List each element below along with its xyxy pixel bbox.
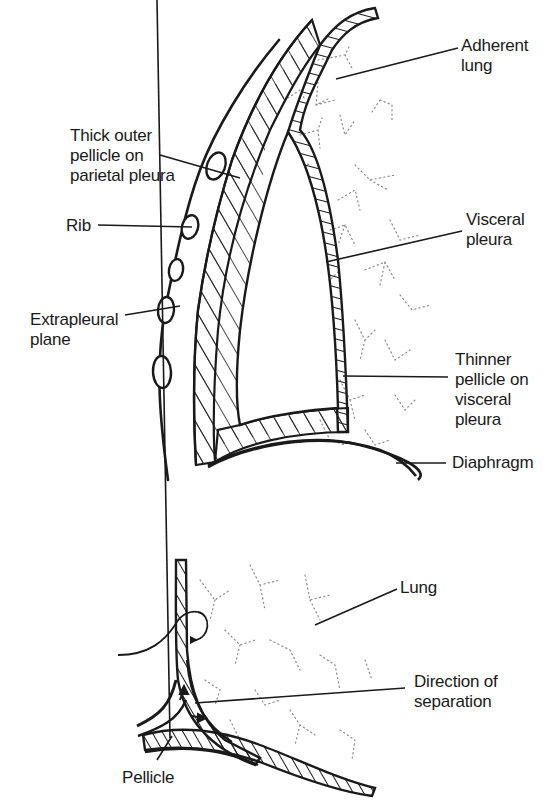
rib-3 [167,258,185,282]
label-extrapleural-plane: Extrapleural plane [30,310,118,350]
leader-rib [98,225,192,227]
label-adherent-lung: Adherent lung [461,36,528,76]
label-thinner-pellicle: Thinner pellicle on visceral pleura [455,350,528,430]
separation-loop [118,612,207,655]
label-pellicle: Pellicle [122,768,174,788]
upper-diagram [98,8,462,480]
pleural-pellicle-figure: Adherent lung Thick outer pellicle on pa… [0,0,559,810]
label-direction-of-separation: Direction of separation [414,672,498,712]
label-lung: Lung [400,578,437,598]
leader-adherent-lung [336,48,458,79]
lung-tissue-stipple-lower [200,565,372,760]
label-rib: Rib [66,216,91,236]
rib-5 [152,356,172,389]
leader-direction-of-separation [195,688,405,703]
leader-lung [315,589,397,625]
label-diaphragm: Diaphragm [452,453,533,473]
leader-thinner-pellicle [343,376,448,377]
leader-visceral-pleura [326,231,462,262]
label-visceral-pleura: Visceral pleura [466,210,525,250]
label-thick-outer-pellicle: Thick outer pellicle on parietal pleura [70,126,175,186]
pellicle-lower-band [143,730,375,796]
